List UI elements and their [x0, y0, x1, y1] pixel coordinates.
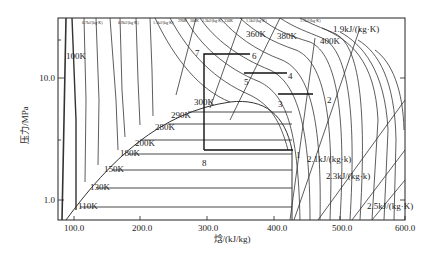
x-tick-300: 300.0 — [198, 223, 219, 233]
label-330k-top: 330K — [224, 18, 233, 23]
label-s13: 1.3kJ/(kg·K) — [202, 18, 223, 23]
label-s17: 1.7kJ/(kg·K) — [300, 18, 321, 23]
label-180k: 180K — [120, 148, 141, 158]
point-4-label: 4 — [288, 71, 293, 81]
pressure-enthalpy-chart: 7 6 5 4 3 2 1 8 100K 110K 130K 150K 180K… — [0, 0, 437, 258]
label-s15: 1.5kJ/(kg·K) — [246, 18, 267, 23]
cycle-path — [204, 54, 313, 150]
label-s11: 1.1kJ/(kg·K) — [153, 20, 174, 25]
label-290k: 290K — [171, 110, 192, 120]
y-axis-labels: 10.0 1.0 — [39, 73, 55, 205]
x-axis-ticks — [74, 216, 405, 220]
x-tick-600: 600.0 — [395, 223, 416, 233]
label-s09: 0.9kJ/(kg·K) — [118, 20, 139, 25]
x-axis-title: 焓/(kJ/kg) — [214, 233, 251, 244]
ph-diagram-svg: 7 6 5 4 3 2 1 8 100K 110K 130K 150K 180K… — [0, 0, 437, 258]
point-3-label: 3 — [278, 99, 283, 109]
y-axis-title: 压力/MPa — [19, 106, 30, 144]
label-s19: 1.9kJ/(kg·K) — [333, 24, 379, 34]
x-axis-labels: 100.0 200.0 300.0 400.0 500.0 600.0 焓/(k… — [64, 223, 416, 244]
point-8-label: 8 — [202, 158, 207, 168]
x-tick-100: 100.0 — [64, 223, 85, 233]
label-300k: 300K — [194, 97, 215, 107]
label-380k: 380K — [277, 31, 298, 41]
point-6-label: 6 — [252, 51, 257, 61]
x-tick-400: 400.0 — [267, 223, 288, 233]
label-150k: 150K — [104, 164, 125, 174]
y-tick-10: 10.0 — [39, 73, 55, 83]
label-s07: 0.7kJ/(kg·K) — [82, 20, 103, 25]
isentrope-labels: 1.9kJ/(kg·K) 2.1kJ/(kg·k) 2.3kJ/(kg·k) 2… — [307, 24, 413, 211]
label-110k: 110K — [78, 201, 98, 211]
label-400k: 400K — [320, 36, 341, 46]
point-5-label: 5 — [244, 77, 249, 87]
isotherm-labels: 100K 110K 130K 150K 180K 200K 280K 290K … — [66, 29, 341, 211]
label-290k-top: 290K — [178, 18, 187, 23]
point-2-label: 2 — [327, 95, 332, 105]
label-280k: 280K — [155, 122, 176, 132]
y-tick-1: 1.0 — [44, 195, 56, 205]
point-1-label: 1 — [296, 150, 301, 160]
two-phase-isobars — [80, 112, 292, 207]
label-100k: 100K — [66, 51, 87, 61]
label-300k-top: 300K — [190, 18, 199, 23]
label-200k: 200K — [135, 138, 156, 148]
label-s25: 2.5kJ/(kg·K) — [367, 201, 413, 211]
x-tick-500: 500.0 — [332, 223, 353, 233]
label-130k: 130K — [90, 182, 111, 192]
label-360k: 360K — [246, 29, 267, 39]
label-s23: 2.3kJ/(kg·k) — [326, 171, 370, 181]
x-tick-200: 200.0 — [132, 223, 153, 233]
point-7-label: 7 — [195, 48, 200, 58]
label-s21: 2.1kJ/(kg·k) — [307, 154, 351, 164]
